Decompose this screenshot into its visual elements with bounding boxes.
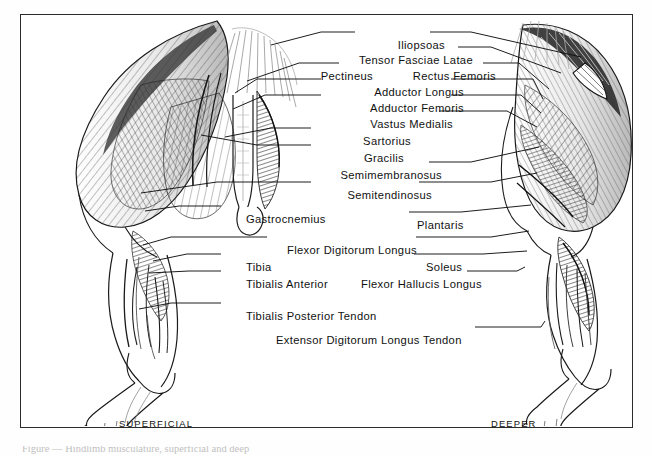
label-gastrocnemius: Gastrocnemius (246, 214, 326, 225)
figure-caption: Figure — Hindlimb musculature, superfici… (22, 446, 322, 456)
label-rectus-femoris: Rectus Femoris (413, 71, 496, 82)
view-caption-superficial: SUPERFICIAL (119, 418, 193, 428)
label-gracilis: Gracilis (364, 153, 404, 164)
label-vastus-medialis: Vastus Medialis (370, 119, 453, 130)
label-tibia: Tibia (246, 262, 272, 273)
label-flexor-digitorum-longus: Flexor Digitorum Longus (287, 245, 417, 256)
view-caption-deeper: DEEPER (491, 418, 536, 428)
label-soleus: Soleus (426, 262, 462, 273)
label-iliopsoas: Iliopsoas (398, 40, 445, 51)
label-semitendinosus: Semitendinosus (347, 190, 432, 201)
label-extensor-digitorum-longus-tendon: Extensor Digitorum Longus Tendon (276, 335, 462, 346)
figure-plate-stage: Iliopsoas Tensor Fasciae Latae Pectineus… (0, 0, 652, 456)
label-adductor-femoris: Adductor Femoris (370, 103, 464, 114)
label-flexor-hallucis-longus: Flexor Hallucis Longus (361, 279, 482, 290)
deeper-limb-drawing (501, 21, 631, 426)
label-adductor-longus: Adductor Longus (374, 87, 464, 98)
label-pectineus: Pectineus (321, 71, 373, 82)
label-tensor-fasciae-latae: Tensor Fasciae Latae (359, 55, 473, 66)
figure-caption-text: Figure — Hindlimb musculature, superfici… (22, 446, 322, 454)
label-plantaris: Plantaris (417, 220, 464, 231)
label-tibialis-posterior-tendon: Tibialis Posterior Tendon (246, 311, 377, 322)
illustration-frame: Iliopsoas Tensor Fasciae Latae Pectineus… (20, 14, 633, 428)
label-sartorius: Sartorius (363, 136, 411, 147)
label-tibialis-anterior: Tibialis Anterior (246, 279, 328, 290)
label-semimembranosus: Semimembranosus (340, 170, 442, 181)
